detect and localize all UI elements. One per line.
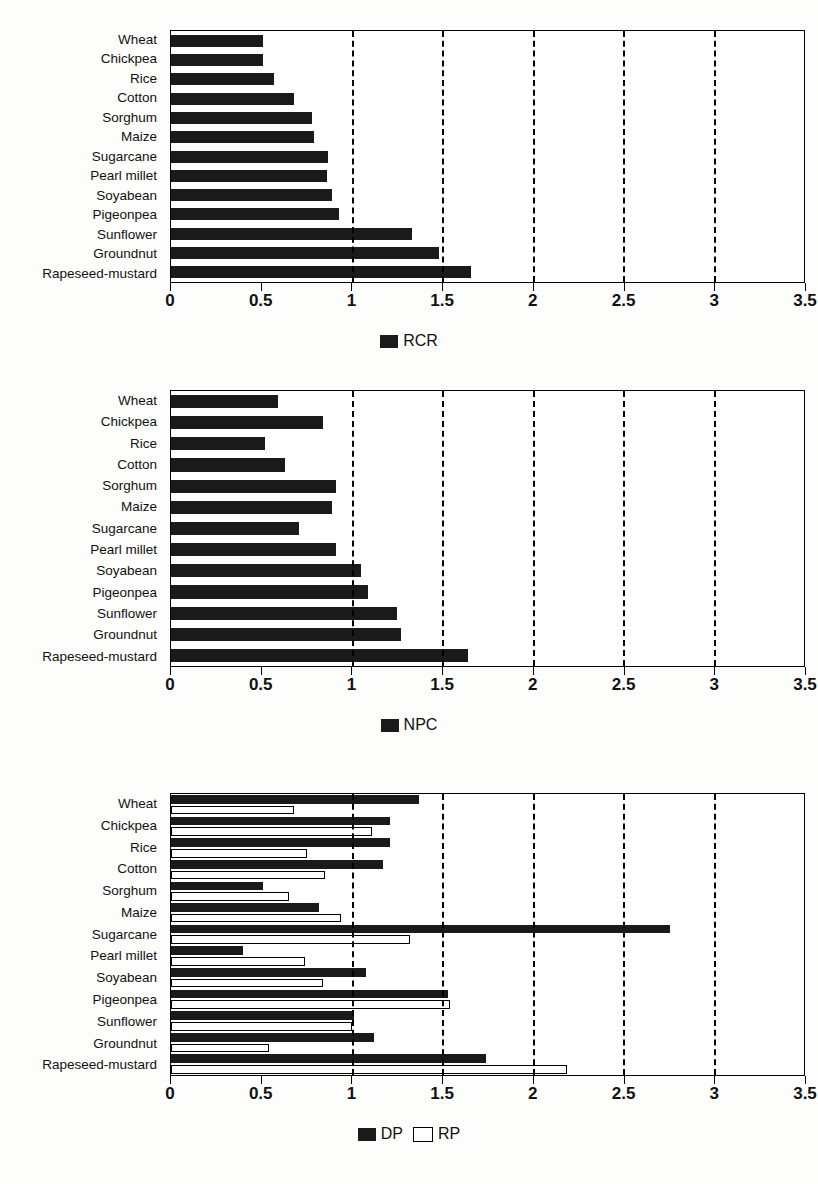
legend-item-rp[interactable]: RP [413, 1125, 460, 1143]
x-axis-tick-label: 3 [710, 675, 719, 695]
x-axis-tick [533, 283, 534, 291]
x-axis-tick-label: 2.5 [612, 675, 636, 695]
legend-item-rcr[interactable]: RCR [380, 332, 438, 350]
x-axis-tick-label: 0.5 [249, 291, 273, 311]
x-axis-tick [533, 1076, 534, 1084]
bar-rp [171, 827, 372, 836]
legend-dp-rp: DPRP [0, 1125, 818, 1143]
gridline [533, 31, 535, 282]
x-axis-tick [261, 1076, 262, 1084]
y-axis-tick-label: Rice [0, 837, 163, 859]
bar-rp [171, 849, 307, 858]
gridline [442, 391, 444, 666]
bar-rp [171, 979, 323, 988]
y-axis-tick-label: Groundnut [0, 244, 163, 263]
bar-row [171, 186, 804, 205]
bar-row [171, 497, 804, 518]
legend-item-npc[interactable]: NPC [381, 716, 438, 734]
bar-row [171, 603, 804, 624]
bar-row [171, 859, 804, 881]
y-axis-tick-label: Wheat [0, 793, 163, 815]
x-axis-tick [261, 667, 262, 675]
bar-row [171, 50, 804, 69]
x-axis-tick [442, 283, 443, 291]
y-axis-tick-label: Sorghum [0, 108, 163, 127]
y-axis-tick-label: Pigeonpea [0, 582, 163, 603]
bar-dp [171, 990, 448, 999]
plot-area-dp-rp [170, 793, 805, 1076]
bar-row [171, 816, 804, 838]
bar-npc [171, 501, 332, 514]
y-axis-tick-label: Soyabean [0, 186, 163, 205]
bar-rp [171, 957, 305, 966]
x-axis-tick-label: 0 [165, 1084, 174, 1104]
legend-label: DP [381, 1125, 403, 1143]
bar-row [171, 1053, 804, 1075]
gridline [623, 794, 625, 1075]
gridline [714, 794, 716, 1075]
x-axis-rcr: 00.511.522.533.5 [170, 283, 805, 309]
bar-dp [171, 925, 670, 934]
x-axis-tick-label: 2.5 [612, 1084, 636, 1104]
bar-rcr [171, 247, 439, 259]
x-axis-tick-label: 1 [347, 1084, 356, 1104]
bar-row [171, 205, 804, 224]
bar-rcr [171, 228, 412, 240]
x-axis-npc: 00.511.522.533.5 [170, 667, 805, 693]
bar-dp [171, 860, 383, 869]
gridline [714, 391, 716, 666]
bar-row [171, 880, 804, 902]
legend-swatch-icon [413, 1127, 433, 1142]
y-axis-tick-label: Wheat [0, 390, 163, 411]
bar-npc [171, 543, 336, 556]
x-axis-tick-label: 0.5 [249, 675, 273, 695]
figure-page: WheatChickpeaRiceCottonSorghumMaizeSugar… [0, 0, 818, 1184]
x-axis-tick-label: 2 [528, 675, 537, 695]
bar-rcr [171, 93, 294, 105]
x-axis-tick [714, 1076, 715, 1084]
x-axis-tick-label: 1 [347, 675, 356, 695]
y-axis-tick-label: Groundnut [0, 1032, 163, 1054]
x-axis-tick-label: 1 [347, 291, 356, 311]
x-axis-tick [351, 1076, 352, 1084]
x-axis-tick-label: 0 [165, 291, 174, 311]
bar-rcr [171, 73, 274, 85]
x-axis-tick [442, 667, 443, 675]
bar-row [171, 263, 804, 282]
bar-npc [171, 458, 285, 471]
y-axis-tick-label: Pearl millet [0, 166, 163, 185]
bar-dp [171, 903, 319, 912]
bar-npc [171, 628, 401, 641]
bar-rp [171, 914, 341, 923]
gridline [352, 391, 354, 666]
bar-row [171, 624, 804, 645]
bar-row [171, 412, 804, 433]
bar-rp [171, 935, 410, 944]
bar-row [171, 31, 804, 50]
legend-label: NPC [404, 716, 438, 734]
y-axis-tick-label: Sugarcane [0, 924, 163, 946]
bar-rcr [171, 35, 263, 47]
bar-rows-npc [171, 391, 804, 666]
bar-rp [171, 1022, 352, 1031]
y-axis-tick-label: Rice [0, 433, 163, 454]
x-axis-tick [261, 283, 262, 291]
bar-rp [171, 806, 294, 815]
x-axis-tick [533, 667, 534, 675]
x-axis-tick-label: 1.5 [430, 675, 454, 695]
bar-rcr [171, 266, 471, 278]
y-axis-tick-label: Sugarcane [0, 518, 163, 539]
x-axis-tick-label: 1.5 [430, 1084, 454, 1104]
bar-row [171, 1032, 804, 1054]
legend-item-dp[interactable]: DP [358, 1125, 403, 1143]
bar-row [171, 128, 804, 147]
y-axis-tick-label: Rice [0, 69, 163, 88]
bar-rp [171, 1065, 567, 1074]
legend-npc: NPC [0, 716, 818, 734]
x-axis-dp-rp: 00.511.522.533.5 [170, 1076, 805, 1102]
y-axis-tick-label: Groundnut [0, 624, 163, 645]
bar-rows-rcr [171, 31, 804, 282]
gridline [352, 31, 354, 282]
x-axis-tick-label: 2.5 [612, 291, 636, 311]
y-axis-tick-label: Chickpea [0, 815, 163, 837]
